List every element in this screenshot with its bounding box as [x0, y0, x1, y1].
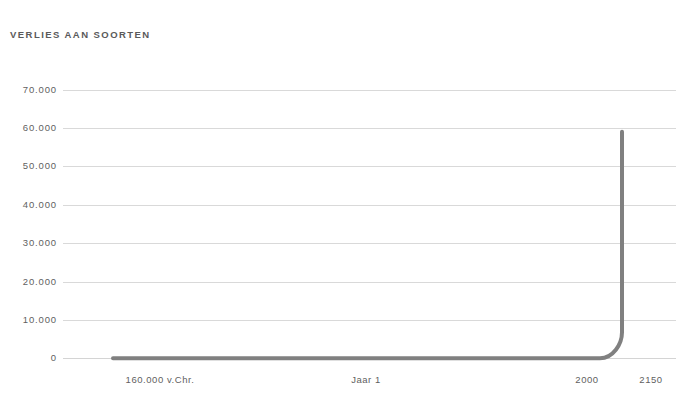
- y-axis-tick-label: 30.000: [0, 237, 57, 248]
- y-axis-tick-label: 40.000: [0, 199, 57, 210]
- gridline: [63, 320, 676, 321]
- gridline: [63, 205, 676, 206]
- gridline: [63, 166, 676, 167]
- chart-title: VERLIES AAN SOORTEN: [10, 29, 151, 41]
- x-axis-tick-label: 2150: [639, 374, 662, 386]
- plot-area: [63, 88, 676, 359]
- gridline: [63, 243, 676, 244]
- y-axis-tick-label: 10.000: [0, 314, 57, 325]
- y-axis-tick-label: 50.000: [0, 160, 57, 171]
- x-axis-tick-label: 2000: [575, 374, 598, 386]
- species-loss-chart: VERLIES AAN SOORTEN 70.00060.00050.00040…: [0, 0, 692, 393]
- x-axis-tick-label: 160.000 v.Chr.: [126, 374, 195, 386]
- y-axis-tick-label: 0: [0, 352, 57, 363]
- y-axis-tick-label: 20.000: [0, 276, 57, 287]
- gridline: [63, 358, 676, 359]
- gridline: [63, 128, 676, 129]
- gridline: [63, 90, 676, 91]
- gridline: [63, 282, 676, 283]
- x-axis-tick-label: Jaar 1: [351, 374, 381, 386]
- y-axis-tick-label: 60.000: [0, 122, 57, 133]
- y-axis-tick-label: 70.000: [0, 84, 57, 95]
